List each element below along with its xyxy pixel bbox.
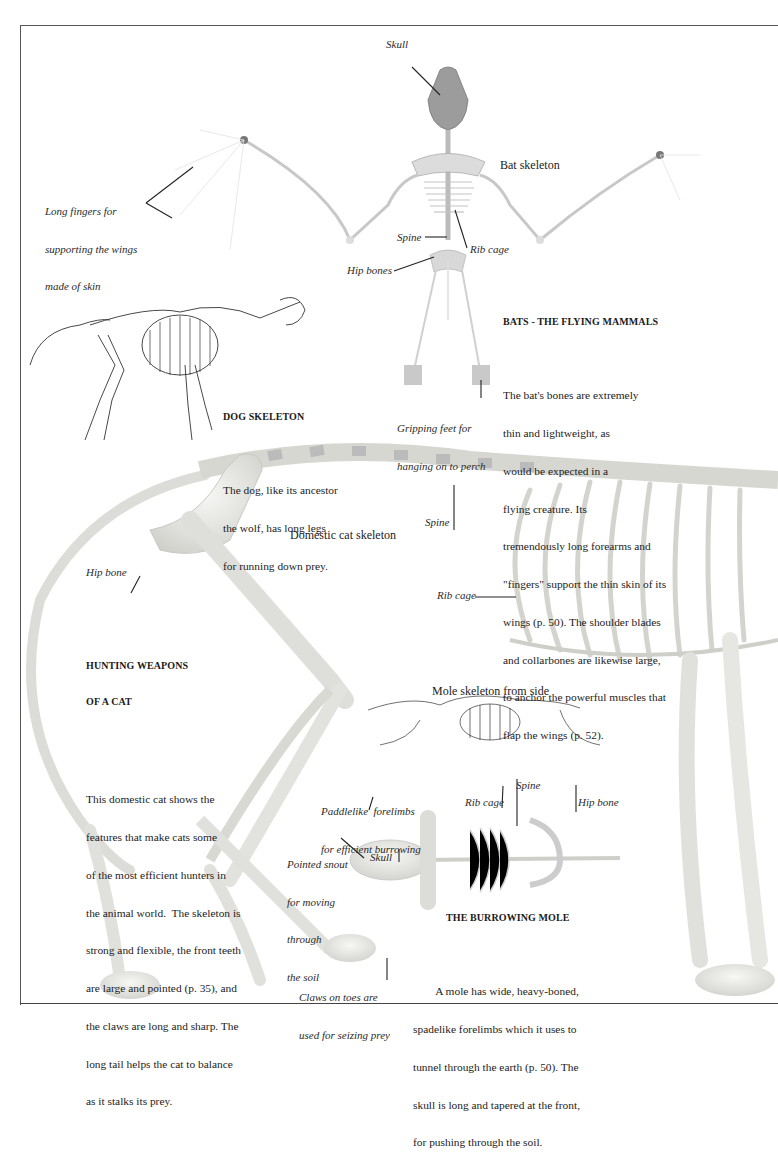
dog-caption: DOG SKELETON The dog, like its ancestor … [223, 375, 338, 616]
cat-rib-cage-label: Rib cage [437, 589, 476, 602]
mole-caption: THE BURROWING MOLE A mole has wide, heav… [413, 876, 580, 1152]
mole-skull-label: Skull [370, 851, 392, 864]
bat-hip-bones-label: Hip bones [347, 264, 392, 277]
cat-caption: HUNTING WEAPONS OF A CAT This domestic c… [86, 600, 241, 1151]
cat-spine-label: Spine [425, 516, 449, 529]
bat-rib-cage-label: Rib cage [470, 243, 509, 256]
mole-rib-cage-label: Rib cage [465, 796, 504, 809]
dog-caption-heading: DOG SKELETON [223, 411, 338, 423]
mole-caption-heading: THE BURROWING MOLE [413, 912, 580, 924]
bat-caption-body: The bat's bones are extremely thin and l… [503, 364, 666, 767]
bat-skull-label: Skull [386, 38, 408, 51]
cat-skeleton-title: Domestic cat skeleton [290, 528, 396, 542]
cat-caption-heading: HUNTING WEAPONS OF A CAT [86, 636, 241, 732]
bat-caption: BATS - THE FLYING MAMMALS The bat's bone… [503, 280, 666, 785]
mole-caption-body: A mole has wide, heavy-boned, spadelike … [413, 960, 580, 1152]
bat-fingers-label: Long fingers for supporting the wings ma… [45, 180, 137, 305]
mole-hip-bone-label: Hip bone [578, 796, 619, 809]
bat-spine-label: Spine [397, 231, 421, 244]
bat-caption-heading: BATS - THE FLYING MAMMALS [503, 316, 666, 328]
mole-side-title: Mole skeleton from side [432, 684, 549, 698]
bat-skeleton-title: Bat skeleton [500, 158, 560, 172]
cat-hip-bone-label: Hip bone [86, 566, 127, 579]
cat-claws-label: Claws on toes are used for seizing prey [299, 966, 390, 1054]
mole-spine-label: Spine [516, 779, 540, 792]
bat-feet-label: Gripping feet for hanging on to perch [397, 397, 486, 485]
cat-caption-body: This domestic cat shows the features tha… [86, 768, 241, 1133]
